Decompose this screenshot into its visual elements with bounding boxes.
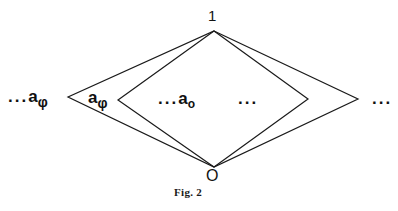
inner-rhombus (118, 31, 308, 167)
label-left-outer-a-phi: ...aφ (8, 88, 48, 109)
ellipsis-far-right: ... (372, 90, 392, 107)
rhombi-diagram (0, 0, 398, 211)
term-subscript-phi-inner: φ (97, 95, 107, 111)
ellipsis-center-right: ... (238, 90, 258, 107)
term-base-a-phi-outer: a (28, 87, 37, 106)
label-left-inner-a-phi: aφ (88, 89, 107, 110)
term-subscript-phi-outer: φ (38, 94, 48, 110)
vertex-label-top: 1 (208, 8, 216, 23)
outer-rhombus (68, 31, 358, 167)
ellipsis-center-left: ... (158, 89, 178, 108)
term-subscript-o: o (188, 97, 195, 111)
label-center-a-o: ...ao (158, 90, 195, 110)
term-base-a-o: a (178, 89, 187, 108)
ellipsis-left-outer: ... (8, 87, 28, 106)
vertex-label-bottom: O (206, 168, 218, 184)
figure-container: 1 O ...aφ aφ ...ao ... ... Fig. 2 (0, 0, 398, 211)
figure-caption: Fig. 2 (174, 186, 202, 198)
